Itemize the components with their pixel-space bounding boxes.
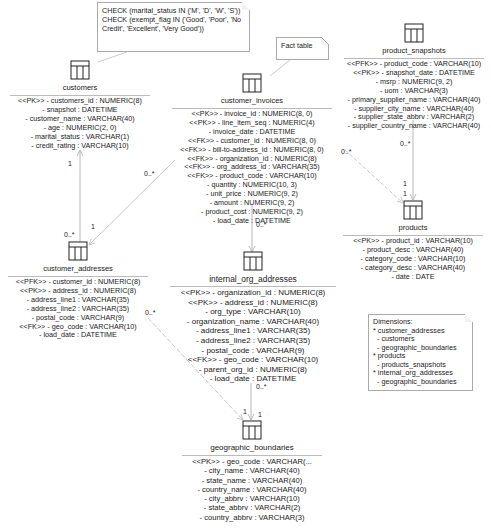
attribute: - load_date : DATETIME xyxy=(8,331,148,340)
note-fold-icon xyxy=(321,37,329,45)
attribute: - load_date : DATETIME xyxy=(170,374,336,384)
entity-name: internal_org_addresses xyxy=(170,274,336,284)
note-line: Credit', 'Excellent', 'Very Good')) xyxy=(102,24,245,33)
multiplicity-label: 0..* xyxy=(256,221,267,229)
attribute: - country_abbrv : VARCHAR(3) xyxy=(182,513,322,522)
attribute: - city_name : VARCHAR(40) xyxy=(182,466,322,475)
multiplicity-label: 1 xyxy=(258,411,262,419)
check-constraints-note: CHECK (marital_status IN ('M', 'D', 'W',… xyxy=(97,2,250,52)
table-icon xyxy=(403,200,423,220)
entity-product-snapshots[interactable]: product_snapshots <<PFK>> - product_code… xyxy=(344,23,484,131)
multiplicity-label: 1 xyxy=(403,180,407,188)
table-icon xyxy=(404,23,424,43)
multiplicity-label: 0..* xyxy=(341,148,352,156)
entity-products[interactable]: products <<PK>> - product_id : VARCHAR(1… xyxy=(343,200,483,282)
table-icon xyxy=(242,73,262,93)
rel-line-invoices-products xyxy=(345,150,403,203)
note-line: - geographic_boundaries xyxy=(373,378,468,387)
attribute: - parent_org_id : NUMERIC(8) xyxy=(170,365,336,375)
attribute: - load_date : DATETIME xyxy=(172,217,332,226)
entity-name: geographic_boundaries xyxy=(182,443,322,453)
attribute: - state_name : VARCHAR(40) xyxy=(182,476,322,485)
multiplicity-label: 1 xyxy=(243,408,247,416)
table-icon xyxy=(243,251,263,271)
multiplicity-label: 0..* xyxy=(64,231,75,239)
note-fold-icon xyxy=(242,2,250,10)
multiplicity-label: 0..* xyxy=(256,383,267,391)
divider xyxy=(182,455,322,456)
entity-customer-invoices[interactable]: customer_invoices <<PK>> - invoice_id : … xyxy=(172,73,332,226)
entity-geographic-boundaries[interactable]: geographic_boundaries <<PK>> - geo_code … xyxy=(182,420,322,522)
attribute: - state_abbrv : VARCHAR(2) xyxy=(182,503,322,512)
fact-table-note: Fact table xyxy=(276,37,329,60)
attribute: - city_abbrv : VARCHAR(10) xyxy=(182,494,322,503)
note-text: Fact table xyxy=(281,41,324,50)
entity-name: products xyxy=(343,223,483,233)
note-line: CHECK (exempt_flag IN ('Good', 'Poor', '… xyxy=(102,15,245,24)
entity-name: customer_addresses xyxy=(8,264,148,274)
attribute: - country_name : VARCHAR(40) xyxy=(182,485,322,494)
multiplicity-label: 0..* xyxy=(145,309,156,317)
multiplicity-label: 1 xyxy=(403,190,407,198)
attribute: - supplier_country_name : VARCHAR(40) xyxy=(344,122,484,131)
attribute: <<PK>> - address_id : NUMERIC(8) xyxy=(170,298,336,308)
table-icon xyxy=(68,241,88,261)
attribute: - postal_code : VARCHAR(9) xyxy=(170,346,336,356)
dimensions-note: Dimensions: * customer_addresses - custo… xyxy=(368,314,473,391)
entity-customer-addresses[interactable]: customer_addresses <<PFK>> - customer_id… xyxy=(8,241,148,340)
attribute: - organization_name : VARCHAR(40) xyxy=(170,317,336,327)
attribute: - address_line1 : VARCHAR(35) xyxy=(170,326,336,336)
note-line: CHECK (marital_status IN ('M', 'D', 'W',… xyxy=(102,6,245,15)
attribute: - address_line2 : VARCHAR(35) xyxy=(170,336,336,346)
entity-internal-org-addresses[interactable]: internal_org_addresses <<PK>> - organiza… xyxy=(170,251,336,384)
attribute: - org_type : VARCHAR(10) xyxy=(170,307,336,317)
divider xyxy=(170,286,336,287)
entity-customers[interactable]: customers <<PK>> - customers_id : NUMERI… xyxy=(10,60,150,150)
entity-name: customers xyxy=(10,83,150,93)
multiplicity-label: 0..* xyxy=(400,140,411,148)
rel-line-invoices-addresses xyxy=(89,160,175,245)
table-icon xyxy=(242,420,262,440)
attribute: - credit_rating : VARCHAR(10) xyxy=(10,142,150,151)
entity-name: customer_invoices xyxy=(172,96,332,106)
note-fold-icon xyxy=(465,314,473,322)
table-icon xyxy=(70,60,90,80)
diagram-canvas: CHECK (marital_status IN ('M', 'D', 'W',… xyxy=(0,0,491,529)
multiplicity-label: 1 xyxy=(68,160,72,168)
attribute: <<PK>> - geo_code : VARCHAR(... xyxy=(182,457,322,466)
multiplicity-label: 1 xyxy=(91,223,95,231)
attribute: <<FK>> - geo_code : VARCHAR(10) xyxy=(170,355,336,365)
entity-name: product_snapshots xyxy=(344,46,484,56)
multiplicity-label: 0..* xyxy=(144,170,155,178)
attribute: - date : DATE xyxy=(343,273,483,282)
attribute: <<PK>> - organization_id : NUMERIC(8) xyxy=(170,288,336,298)
